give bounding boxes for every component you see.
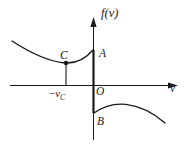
y-axis-arrowhead: [90, 17, 96, 27]
math-plot-svg: [0, 0, 187, 148]
curve-left-branch: [12, 41, 93, 63]
curve-right-branch: [94, 104, 165, 123]
x-axis-label: v: [170, 83, 175, 95]
origin-label: O: [96, 86, 104, 98]
y-axis-label: f(v): [101, 7, 118, 20]
point-label-b: B: [97, 116, 104, 128]
figure-container: f(v) v A B C O −vC: [0, 0, 187, 148]
tick-subscript: C: [60, 93, 65, 102]
point-label-a: A: [99, 48, 106, 60]
point-label-c: C: [60, 50, 68, 62]
tick-label-negative-vc: −vC: [49, 88, 65, 102]
